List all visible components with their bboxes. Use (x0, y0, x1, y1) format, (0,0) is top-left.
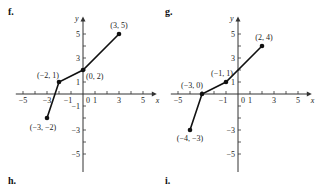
x-tick-label: −5 (174, 96, 183, 105)
x-tick-label: 5 (296, 96, 300, 105)
x-tick-label: 0 (86, 96, 90, 105)
point-label: (2, 4) (255, 33, 273, 42)
x-tick-label: −3 (43, 96, 52, 105)
point-label: (3, 5) (110, 21, 128, 30)
point-label: (0, 2) (86, 72, 104, 81)
point-label: (−1, 1) (211, 69, 233, 78)
data-point (200, 92, 205, 97)
point-label: (−4, −3) (177, 134, 204, 143)
y-axis-label: y (229, 14, 234, 23)
next-graph-y-label: y (75, 183, 80, 186)
y-tick-label: −3 (71, 126, 80, 135)
y-axis-arrow-icon (81, 17, 86, 22)
point-label: (−2, 1) (37, 71, 59, 80)
x-tick-label: 0 (241, 96, 245, 105)
data-point (188, 128, 193, 133)
x-tick-label: 3 (117, 96, 121, 105)
x-axis-label: x (310, 96, 315, 105)
x-tick-label: −1 (219, 96, 228, 105)
chart-canvas: −5−3−10135−5−3−1135xy(−3, −2)(−2, 1)(0, … (0, 0, 321, 186)
x-axis-label: x (155, 96, 160, 105)
y-tick-label: 1 (231, 78, 235, 87)
y-tick-label: 5 (231, 30, 235, 39)
y-tick-label: 3 (76, 54, 80, 63)
x-tick-label: 1 (248, 96, 252, 105)
data-point (45, 116, 50, 121)
y-tick-label: 5 (76, 30, 80, 39)
point-label: (−3, −2) (30, 123, 57, 132)
y-axis-arrow-icon (236, 17, 241, 22)
y-axis-label: y (74, 14, 79, 23)
data-point (224, 80, 229, 85)
data-point (117, 32, 122, 37)
x-tick-label: 3 (272, 96, 276, 105)
y-tick-label: −5 (71, 150, 80, 159)
point-label: (−3, 0) (181, 81, 203, 90)
x-tick-label: −5 (19, 96, 28, 105)
y-tick-label: −5 (226, 150, 235, 159)
y-tick-label: −1 (71, 102, 80, 111)
data-point (57, 80, 62, 85)
y-tick-label: −3 (226, 126, 235, 135)
data-point (81, 68, 86, 73)
data-point (260, 44, 265, 49)
y-tick-label: 3 (231, 54, 235, 63)
x-tick-label: 1 (93, 96, 97, 105)
x-tick-label: 5 (141, 96, 145, 105)
y-tick-label: 1 (76, 78, 80, 87)
